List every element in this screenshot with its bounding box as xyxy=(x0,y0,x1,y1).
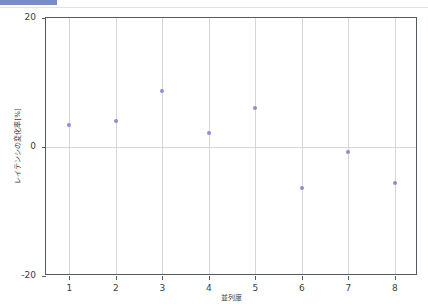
data-point xyxy=(160,89,164,93)
x-tick-mark xyxy=(116,276,117,280)
x-gridline xyxy=(209,18,210,274)
y-tick-mark xyxy=(42,276,46,277)
x-tick-mark xyxy=(348,276,349,280)
data-point xyxy=(114,119,118,123)
x-tick-mark xyxy=(162,276,163,280)
x-gridline xyxy=(255,18,256,274)
x-gridline xyxy=(395,18,396,274)
data-point xyxy=(300,186,304,190)
data-point xyxy=(207,131,211,135)
y-axis-label: レイテンシの変化率[%] xyxy=(12,108,22,183)
x-tick-mark xyxy=(69,276,70,280)
x-tick-mark xyxy=(395,276,396,280)
x-tick-mark xyxy=(302,276,303,280)
x-gridline xyxy=(302,18,303,274)
data-point xyxy=(393,181,397,185)
data-point xyxy=(253,106,257,110)
x-axis-label: 並列度 xyxy=(45,292,417,302)
y-axis-label-wrap: レイテンシの変化率[%] xyxy=(10,17,24,275)
data-point xyxy=(346,150,350,154)
x-gridline xyxy=(162,18,163,274)
header-divider xyxy=(0,7,428,8)
zero-gridline xyxy=(46,147,416,148)
y-tick-mark xyxy=(42,147,46,148)
x-gridline xyxy=(69,18,70,274)
window-top-strip xyxy=(0,0,428,9)
chart-figure: 12345678-20020 レイテンシの変化率[%] 並列度 xyxy=(0,9,428,304)
y-tick-mark xyxy=(42,18,46,19)
x-tick-mark xyxy=(255,276,256,280)
plot-area: 12345678-20020 xyxy=(45,17,417,275)
x-gridline xyxy=(348,18,349,274)
x-tick-mark xyxy=(209,276,210,280)
accent-bar xyxy=(0,0,57,5)
data-point xyxy=(67,123,71,127)
x-gridline xyxy=(116,18,117,274)
